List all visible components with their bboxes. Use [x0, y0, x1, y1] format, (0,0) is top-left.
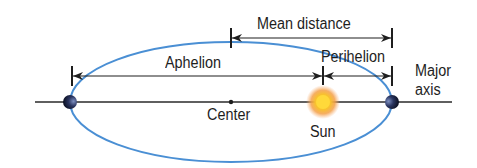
center-label: Center: [207, 107, 250, 123]
perihelion-label: Perihelion: [321, 49, 385, 65]
sun-label: Sun: [310, 124, 336, 140]
orbit-diagram: [0, 0, 477, 168]
planet-perihelion-icon: [385, 95, 399, 109]
major-axis-label-line2: axis: [415, 82, 441, 98]
aphelion-label: Aphelion: [165, 55, 221, 71]
sun-icon: [316, 95, 330, 109]
center-dot: [229, 100, 233, 104]
planet-aphelion-icon: [63, 95, 77, 109]
major-axis-label-line1: Major: [415, 63, 451, 79]
mean-distance-label: Mean distance: [257, 16, 351, 32]
